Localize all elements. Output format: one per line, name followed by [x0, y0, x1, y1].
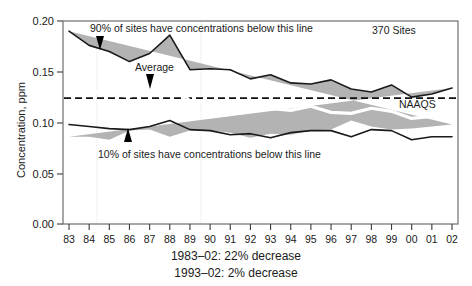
x-tick-label: 94	[285, 233, 297, 245]
x-tick-label: 98	[366, 233, 378, 245]
x-tick-label: 88	[164, 233, 176, 245]
x-tick-label: 95	[305, 233, 317, 245]
x-tick-label: 86	[124, 233, 136, 245]
caption-line-2: 1993–02: 2% decrease	[174, 266, 298, 280]
x-tick-label: 84	[83, 233, 95, 245]
x-tick-label: 96	[325, 233, 337, 245]
site-count-label: 370 Sites	[372, 24, 416, 36]
naaqs-label: NAAQS	[399, 98, 436, 110]
x-tick-label: 93	[265, 233, 277, 245]
x-tick-label: 01	[426, 233, 438, 245]
y-axis-title: Concentration, ppm	[15, 82, 27, 178]
y-tick-label: 0.05	[33, 168, 54, 180]
x-tick-label: 87	[144, 233, 156, 245]
y-tick-label: 0.15	[33, 66, 54, 78]
upper-annotation-label: 90% of sites have concentrations below t…	[90, 22, 313, 34]
x-tick-label: 99	[386, 233, 398, 245]
x-tick-label: 83	[63, 233, 75, 245]
caption-line-1: 1983–02: 22% decrease	[171, 249, 301, 263]
x-tick-label: 89	[184, 233, 196, 245]
x-tick-label: 91	[224, 233, 236, 245]
x-tick-label: 85	[103, 233, 115, 245]
x-tick-label: 90	[204, 233, 216, 245]
lower-annotation-label: 10% of sites have concentrations below t…	[98, 148, 321, 160]
ozone-trend-chart: Concentration, ppm 0.20 0.15 0.10 0.05 0…	[0, 0, 472, 286]
y-tick-label: 0.20	[33, 15, 54, 27]
x-tick-label: 92	[245, 233, 257, 245]
x-tick-label: 97	[345, 233, 357, 245]
y-tick-label: 0.10	[33, 117, 54, 129]
x-tick-label: 02	[446, 233, 458, 245]
average-annotation-label: Average	[135, 61, 174, 73]
x-tick-label: 00	[406, 233, 418, 245]
chart-canvas: Concentration, ppm 0.20 0.15 0.10 0.05 0…	[0, 0, 472, 286]
y-tick-label: 0.00	[33, 218, 54, 230]
